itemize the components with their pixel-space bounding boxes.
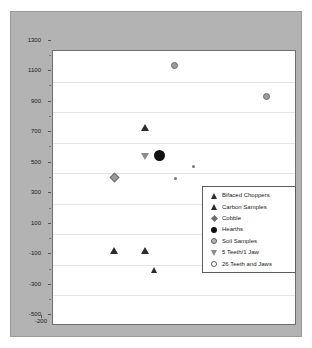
data-point-26-teeth-and-jaws[interactable] <box>192 165 195 168</box>
y-tick <box>48 314 51 315</box>
legend-item-5-teeth-1-jaw[interactable]: 5 Teeth/1 Jaw <box>203 247 295 258</box>
gridline <box>53 143 295 144</box>
data-point-carbon-samples[interactable] <box>141 124 149 131</box>
open-circle-icon <box>208 261 220 267</box>
legend-item-26-teeth-and-jaws[interactable]: 26 Teeth and Jaws <box>203 258 295 269</box>
y-tick-label: 1100 <box>7 67 41 74</box>
scatter-chart-figure: 1300 1100 900 700 500 300 100 -100 -300 … <box>0 0 312 348</box>
chart-legend[interactable]: Bifaced Choppers Carbon Samples Cobble H… <box>202 186 296 273</box>
legend-item-soil-samples[interactable]: Soil Samples <box>203 236 295 247</box>
y-tick-minor <box>49 269 51 270</box>
y-tick <box>48 284 51 285</box>
y-tick-minor <box>49 146 51 147</box>
x-tick <box>41 315 42 318</box>
y-tick <box>48 40 51 41</box>
data-point-5-teeth-1-jaw[interactable] <box>141 153 149 160</box>
data-point-soil-samples[interactable] <box>171 62 178 69</box>
gray-circle-icon <box>208 238 220 244</box>
diamond-icon <box>208 216 220 221</box>
y-tick <box>48 223 51 224</box>
gridline <box>53 112 295 113</box>
legend-label: 5 Teeth/1 Jaw <box>220 249 259 256</box>
legend-label: Soil Samples <box>220 238 257 245</box>
y-tick-label: 1300 <box>7 37 41 44</box>
y-tick <box>48 253 51 254</box>
y-tick-label: 700 <box>7 128 41 135</box>
data-point-hearths[interactable] <box>154 150 165 161</box>
data-point-bifaced-choppers[interactable] <box>151 267 157 273</box>
triangle-up-icon <box>208 204 220 210</box>
y-tick <box>48 162 51 163</box>
y-tick-minor <box>49 85 51 86</box>
y-tick <box>48 101 51 102</box>
data-point-bifaced-choppers[interactable] <box>141 247 149 254</box>
gridline <box>53 173 295 174</box>
filled-circle-icon <box>208 227 220 233</box>
data-point-26-teeth-and-jaws[interactable] <box>174 177 177 180</box>
y-tick-minor <box>49 55 51 56</box>
chart-panel: 1300 1100 900 700 500 300 100 -100 -300 … <box>10 11 302 337</box>
y-tick-label: -100 <box>7 250 41 257</box>
legend-label: Bifaced Choppers <box>220 192 270 199</box>
y-tick-minor <box>49 177 51 178</box>
y-tick-label: 100 <box>7 220 41 227</box>
triangle-up-icon <box>208 193 220 199</box>
triangle-down-open-icon <box>208 250 220 256</box>
y-tick-label: 500 <box>7 159 41 166</box>
legend-item-hearths[interactable]: Hearths <box>203 224 295 235</box>
data-point-soil-samples[interactable] <box>263 93 270 100</box>
y-tick-label: -300 <box>7 281 41 288</box>
gridline <box>53 82 295 83</box>
y-tick-minor <box>49 238 51 239</box>
y-tick <box>48 131 51 132</box>
legend-label: Hearths <box>220 226 243 233</box>
legend-label: Carbon Samples <box>220 204 267 211</box>
legend-item-bifaced-choppers[interactable]: Bifaced Choppers <box>203 190 295 201</box>
legend-item-cobble[interactable]: Cobble <box>203 213 295 224</box>
y-tick <box>48 70 51 71</box>
y-tick <box>48 192 51 193</box>
y-tick-minor <box>49 208 51 209</box>
data-point-bifaced-choppers[interactable] <box>110 247 118 254</box>
y-tick-minor <box>49 116 51 117</box>
legend-label: Cobble <box>220 215 241 222</box>
legend-label: 26 Teeth and Jaws <box>220 261 272 268</box>
y-tick-label: 900 <box>7 98 41 105</box>
y-tick-label: 300 <box>7 189 41 196</box>
gridline <box>53 295 295 296</box>
legend-item-carbon-samples[interactable]: Carbon Samples <box>203 201 295 212</box>
y-tick-minor <box>49 299 51 300</box>
